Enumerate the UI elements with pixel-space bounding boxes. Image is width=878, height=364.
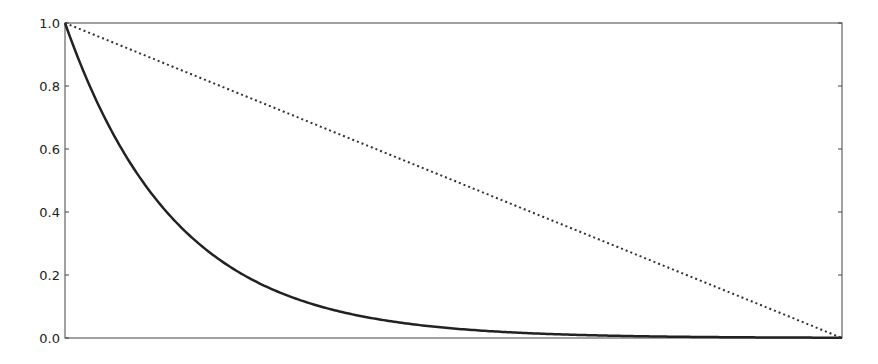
linear-dotted-line [65, 23, 842, 338]
y-tick-label: 0.0 [39, 331, 60, 346]
line-chart: 0.00.20.40.60.81.0 [0, 0, 878, 364]
y-tick-label: 1.0 [39, 16, 60, 31]
y-axis: 0.00.20.40.60.81.0 [39, 16, 842, 346]
y-tick-label: 0.2 [39, 268, 60, 283]
y-tick-label: 0.4 [39, 205, 60, 220]
plot-series [65, 23, 842, 338]
y-tick-label: 0.8 [39, 79, 60, 94]
y-tick-label: 0.6 [39, 142, 60, 157]
